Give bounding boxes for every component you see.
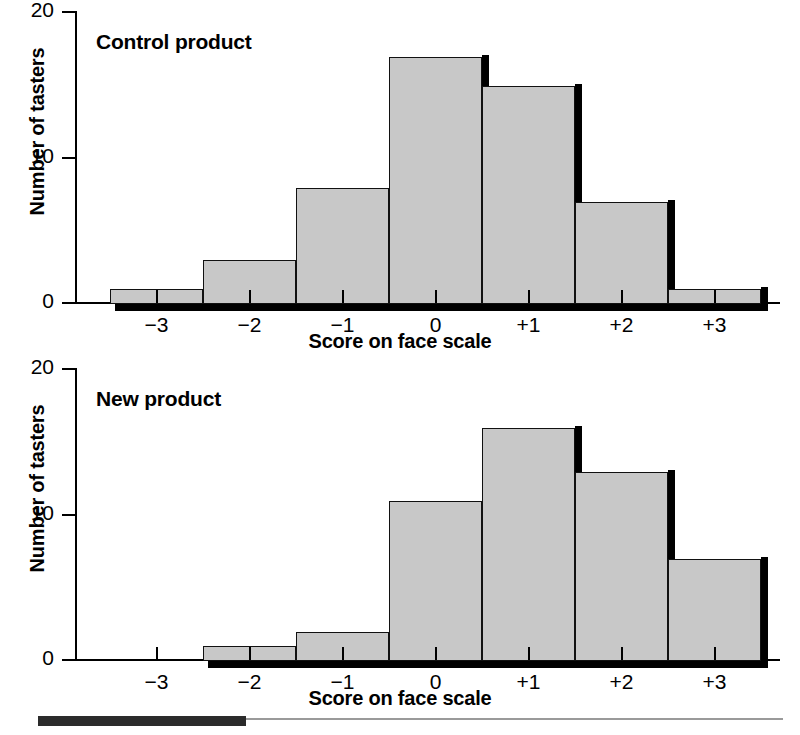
bar-group: [110, 370, 203, 661]
y-tick-label-bottom-10: 10: [31, 501, 54, 525]
bar-shadow-bottom: [673, 304, 768, 311]
bar-group: [389, 13, 482, 304]
x-axis-title-top: Score on face scale: [0, 330, 800, 353]
histogram-bar: [575, 202, 668, 304]
figure-two-histograms: Number of tasters Control product 01020 …: [0, 0, 800, 735]
bar-group: [296, 370, 389, 661]
bar-group: [575, 13, 668, 304]
bar-shadow-bottom: [487, 304, 582, 311]
y-tick-label-top-0: 0: [42, 289, 54, 313]
bar-group: [203, 13, 296, 304]
plot-area-top: 01020 −3−2−10+1+2+3: [75, 13, 780, 303]
x-tick-mark: [714, 647, 716, 660]
bar-group: [296, 13, 389, 304]
chart-panel-control-product: Number of tasters Control product 01020 …: [0, 0, 800, 355]
bar-shadow-bottom: [115, 304, 210, 311]
x-tick-mark: [714, 290, 716, 303]
bar-shadow-bottom: [208, 661, 303, 668]
x-tick-mark: [435, 290, 437, 303]
y-tick-label-top-20: 20: [31, 0, 54, 22]
bar-shadow-bottom: [301, 304, 396, 311]
x-axis-title-bottom: Score on face scale: [0, 687, 800, 710]
x-tick-mark: [249, 290, 251, 303]
histogram-bar: [482, 86, 575, 304]
y-axis-title-top: Number of tasters: [26, 7, 49, 257]
x-tick-mark: [435, 647, 437, 660]
bar-group: [203, 370, 296, 661]
bar-shadow-bottom: [580, 304, 675, 311]
bar-shadow-bottom: [394, 304, 489, 311]
bar-shadow-right: [761, 557, 768, 661]
chart-panel-new-product: Number of tasters New product 01020 −3−2…: [0, 357, 800, 712]
bar-group: [110, 13, 203, 304]
x-tick-mark: [156, 647, 158, 660]
bar-group: [389, 370, 482, 661]
x-tick-mark: [156, 290, 158, 303]
y-axis-title-bottom: Number of tasters: [26, 364, 49, 614]
bar-group: [482, 13, 575, 304]
plot-area-bottom: 01020 −3−2−10+1+2+3: [75, 370, 780, 660]
histogram-bar: [389, 57, 482, 304]
y-tick-label-top-10: 10: [31, 144, 54, 168]
bars-top: [75, 13, 780, 304]
histogram-bar: [575, 472, 668, 661]
bar-shadow-right: [761, 287, 768, 304]
histogram-bar: [668, 559, 761, 661]
x-tick-mark: [342, 647, 344, 660]
x-tick-mark: [621, 647, 623, 660]
y-tick-label-bottom-0: 0: [42, 646, 54, 670]
bar-group: [482, 370, 575, 661]
bar-shadow-bottom: [673, 661, 768, 668]
bar-shadow-bottom: [487, 661, 582, 668]
x-tick-mark: [342, 290, 344, 303]
footer-rule-dark-segment: [38, 716, 246, 726]
histogram-bar: [482, 428, 575, 661]
bar-shadow-bottom: [208, 304, 303, 311]
histogram-bar: [389, 501, 482, 661]
y-tick-label-bottom-20: 20: [31, 355, 54, 379]
bar-group: [668, 370, 761, 661]
x-tick-mark: [528, 290, 530, 303]
histogram-bar: [296, 188, 389, 304]
x-tick-mark: [621, 290, 623, 303]
bar-shadow-bottom: [394, 661, 489, 668]
x-tick-mark: [528, 647, 530, 660]
bar-group: [575, 370, 668, 661]
x-tick-mark: [249, 647, 251, 660]
bar-shadow-bottom: [580, 661, 675, 668]
bar-group: [668, 13, 761, 304]
bar-shadow-bottom: [301, 661, 396, 668]
bars-bottom: [75, 370, 780, 661]
